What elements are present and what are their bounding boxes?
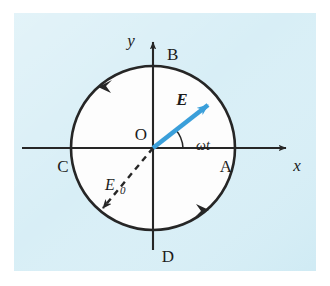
point-b-label: B	[167, 45, 178, 64]
origin-label: O	[135, 125, 147, 144]
phasor-diagram: y B O C A x D E ωt E 0	[0, 0, 330, 286]
angle-label: ωt	[196, 138, 211, 153]
point-a-label: A	[220, 157, 233, 176]
point-c-label: C	[57, 157, 68, 176]
e0-vector-subscript: 0	[120, 184, 126, 196]
figure-container: y B O C A x D E ωt E 0	[0, 0, 330, 286]
e-vector-label: E	[175, 90, 187, 109]
y-axis-label: y	[125, 31, 135, 50]
x-axis-label: x	[292, 156, 301, 175]
e0-vector-label: E	[104, 176, 115, 193]
point-d-label: D	[162, 247, 174, 266]
